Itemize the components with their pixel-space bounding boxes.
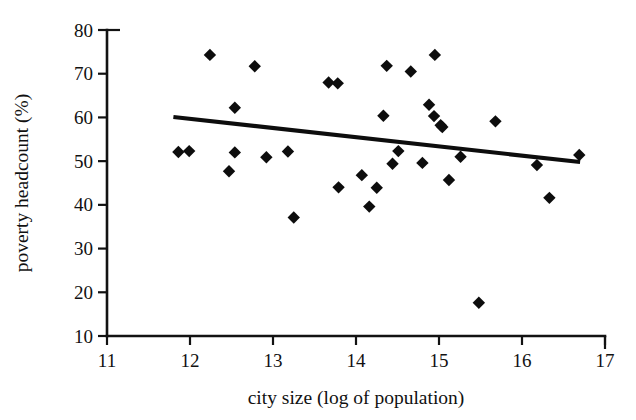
scatter-chart-figure: 1020304050607080 11121314151617 city siz… xyxy=(0,0,636,420)
data-point-marker xyxy=(429,49,441,61)
data-point-marker xyxy=(381,60,393,72)
data-point-marker xyxy=(428,110,440,122)
x-tick-label: 15 xyxy=(430,350,449,371)
x-tick-label: 17 xyxy=(596,350,615,371)
data-point-marker xyxy=(392,145,404,157)
y-tick-label: 40 xyxy=(74,194,93,215)
data-point-marker xyxy=(229,146,241,158)
data-point-marker xyxy=(416,157,428,169)
data-point-marker xyxy=(249,60,261,72)
data-point-marker xyxy=(172,146,184,158)
data-point-marker xyxy=(229,102,241,114)
y-tick-label: 30 xyxy=(74,238,93,259)
data-point-marker xyxy=(260,151,272,163)
x-tick-label: 13 xyxy=(264,350,283,371)
data-point-marker xyxy=(204,49,216,61)
data-point-marker xyxy=(454,151,466,163)
data-point-marker xyxy=(489,115,501,127)
data-point-marker xyxy=(332,77,344,89)
y-tick-label: 50 xyxy=(74,151,93,172)
data-point-marker xyxy=(183,145,195,157)
data-point-marker xyxy=(377,109,389,121)
data-point-marker xyxy=(356,169,368,181)
data-point-marker xyxy=(288,211,300,223)
data-point-marker xyxy=(423,99,435,111)
data-point-marker xyxy=(405,65,417,77)
y-axis-ticks: 1020304050607080 xyxy=(74,20,107,347)
x-axis-title: city size (log of population) xyxy=(248,387,465,409)
data-point-marker xyxy=(332,181,344,193)
data-point-marker xyxy=(371,182,383,194)
data-point-marker xyxy=(223,165,235,177)
y-tick-label: 60 xyxy=(74,107,93,128)
axes-group xyxy=(107,30,605,349)
plot-area: 1020304050607080 11121314151617 city siz… xyxy=(0,0,636,420)
data-point-marker xyxy=(531,159,543,171)
y-tick-label: 70 xyxy=(74,63,93,84)
data-points-layer xyxy=(172,49,585,309)
x-tick-label: 11 xyxy=(98,350,116,371)
data-point-marker xyxy=(543,192,555,204)
x-tick-label: 12 xyxy=(181,350,200,371)
y-axis-title: poverty headcount (%) xyxy=(11,94,33,273)
data-point-marker xyxy=(282,145,294,157)
x-axis-ticks: 11121314151617 xyxy=(98,336,615,371)
y-tick-label: 80 xyxy=(74,20,93,41)
y-tick-label: 10 xyxy=(74,326,93,347)
data-point-marker xyxy=(386,158,398,170)
data-point-marker xyxy=(363,200,375,212)
data-point-marker xyxy=(473,297,485,309)
y-tick-label: 20 xyxy=(74,282,93,303)
x-tick-label: 16 xyxy=(513,350,532,371)
data-point-marker xyxy=(443,174,455,186)
x-tick-label: 14 xyxy=(347,350,367,371)
